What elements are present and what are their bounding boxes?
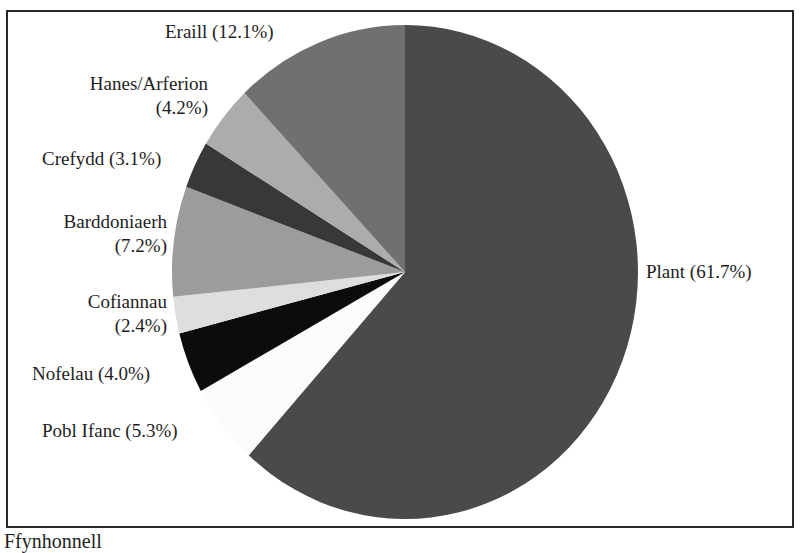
label-barddoniaerh-name: Barddoniaerh <box>20 210 167 234</box>
label-hanes-arferion: Hanes/Arferion (4.2%) <box>30 72 208 120</box>
label-eraill: Eraill (12.1%) <box>165 20 274 44</box>
label-barddoniaerh: Barddoniaerh (7.2%) <box>20 210 167 258</box>
label-hanes-pct: (4.2%) <box>30 96 208 120</box>
label-barddoniaerh-pct: (7.2%) <box>20 234 167 258</box>
label-nofelau: Nofelau (4.0%) <box>32 362 150 386</box>
label-plant: Plant (61.7%) <box>646 260 752 284</box>
pie-slices <box>172 25 638 519</box>
label-cofiannau-name: Cofiannau <box>60 290 167 314</box>
figure-caption: Ffynhonnell <box>4 529 102 553</box>
label-cofiannau-pct: (2.4%) <box>60 314 167 338</box>
label-crefydd: Crefydd (3.1%) <box>42 147 161 171</box>
label-pobl-ifanc: Pobl Ifanc (5.3%) <box>42 419 178 443</box>
label-hanes-name: Hanes/Arferion <box>30 72 208 96</box>
label-cofiannau: Cofiannau (2.4%) <box>60 290 167 338</box>
